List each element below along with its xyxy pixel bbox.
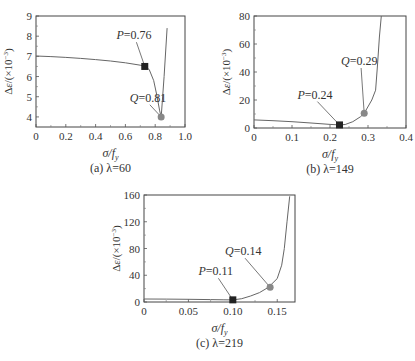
x-tick-label: 0.6 bbox=[119, 130, 133, 142]
marker-p bbox=[229, 296, 236, 303]
marker-label-value: =0.14 bbox=[234, 244, 262, 258]
y-tick-label: 120 bbox=[124, 216, 141, 228]
chart-caption: (c) λ=219 bbox=[196, 336, 243, 350]
x-axis-label: σ/fy bbox=[322, 147, 339, 163]
chart-caption: (a) λ=60 bbox=[90, 161, 131, 175]
x-tick-label: 0.05 bbox=[179, 305, 199, 317]
y-tick-label: 0 bbox=[245, 122, 251, 134]
x-tick-label: 0.10 bbox=[223, 305, 243, 317]
x-tick-label: 1.0 bbox=[178, 130, 192, 142]
marker-label-value: =0.81 bbox=[139, 91, 167, 105]
y-axis-label-unit: /(×10 bbox=[110, 236, 123, 260]
marker-q bbox=[267, 284, 274, 291]
marker-label: P=0.11 bbox=[197, 264, 233, 278]
y-tick-label: 20 bbox=[239, 94, 251, 106]
marker-label: Q=0.14 bbox=[225, 244, 261, 258]
marker-label-value: =0.11 bbox=[206, 264, 233, 278]
plot-frame bbox=[254, 16, 406, 128]
y-tick-label: 160 bbox=[124, 189, 141, 201]
leader-line bbox=[245, 258, 270, 287]
data-line bbox=[254, 16, 381, 125]
marker-label-value: =0.24 bbox=[305, 88, 333, 102]
marker-p bbox=[141, 63, 148, 70]
figure: 00.20.40.60.81.0456789P=0.76Q=0.81Δε/(×1… bbox=[0, 0, 415, 361]
y-axis-label-close: ) bbox=[110, 225, 123, 229]
marker-label-value: =0.29 bbox=[350, 54, 378, 68]
x-tick-label: 0.2 bbox=[323, 131, 337, 143]
x-tick-label: 0 bbox=[33, 130, 39, 142]
y-tick-label: 40 bbox=[129, 269, 141, 281]
y-tick-label: 40 bbox=[239, 66, 251, 78]
marker-label-value: =0.76 bbox=[124, 28, 152, 42]
y-tick-label: 4 bbox=[27, 111, 33, 123]
x-axis-label: σ/fy bbox=[102, 146, 119, 162]
plot-frame bbox=[36, 16, 185, 127]
x-tick-label: 0.8 bbox=[148, 130, 162, 142]
y-tick-label: 7 bbox=[27, 50, 33, 62]
y-tick-label: 80 bbox=[129, 243, 141, 255]
leader-line bbox=[361, 68, 364, 113]
marker-q bbox=[361, 110, 368, 117]
y-tick-label: 0 bbox=[135, 296, 141, 308]
chart-panel-b: 00.10.20.30.4020406080P=0.24Q=0.29Δε/(×1… bbox=[220, 10, 413, 176]
chart-panel-c: 00.050.100.1504080120160P=0.11Q=0.14Δε/(… bbox=[110, 189, 295, 350]
marker-label: Q=0.29 bbox=[341, 54, 377, 68]
x-tick-label: 0.4 bbox=[89, 130, 103, 142]
y-tick-label: 80 bbox=[239, 10, 251, 22]
marker-p bbox=[336, 121, 343, 128]
x-tick-label: 0 bbox=[251, 131, 257, 143]
x-axis-label: σ/fy bbox=[211, 321, 228, 337]
y-axis-label-unit: /(×10 bbox=[2, 59, 15, 83]
marker-label-variable: Q bbox=[341, 54, 350, 68]
y-axis-label: Δε/(×10−3) bbox=[2, 48, 15, 95]
marker-label-variable: Q bbox=[225, 244, 234, 258]
y-axis-label-close: ) bbox=[2, 48, 15, 52]
y-axis-label: Δε/(×10−3) bbox=[220, 48, 233, 95]
y-tick-label: 9 bbox=[27, 10, 33, 22]
y-axis-label-unit: /(×10 bbox=[220, 59, 233, 83]
x-tick-label: 0.4 bbox=[399, 131, 413, 143]
marker-label-variable: Q bbox=[130, 91, 139, 105]
marker-label: Q=0.81 bbox=[130, 91, 166, 105]
x-tick-label: 0.15 bbox=[268, 305, 288, 317]
chart-caption: (b) λ=149 bbox=[306, 162, 354, 176]
y-axis-label: Δε/(×10−3) bbox=[110, 225, 123, 272]
y-tick-label: 5 bbox=[27, 91, 33, 103]
marker-q bbox=[158, 113, 165, 120]
y-axis-label-close: ) bbox=[220, 48, 233, 52]
marker-label: P=0.24 bbox=[296, 88, 332, 102]
leader-line bbox=[136, 42, 144, 66]
chart-panel-a: 00.20.40.60.81.0456789P=0.76Q=0.81Δε/(×1… bbox=[2, 10, 192, 175]
y-tick-label: 60 bbox=[239, 38, 251, 50]
y-axis-label-delta: Δ bbox=[2, 88, 14, 95]
y-axis-label-delta: Δ bbox=[220, 88, 232, 95]
y-tick-label: 8 bbox=[27, 30, 33, 42]
y-axis-label-delta: Δ bbox=[110, 265, 122, 272]
x-tick-label: 0 bbox=[141, 305, 147, 317]
x-tick-label: 0.2 bbox=[59, 130, 73, 142]
x-tick-label: 0.1 bbox=[285, 131, 299, 143]
x-tick-label: 0.3 bbox=[361, 131, 375, 143]
marker-label: P=0.76 bbox=[115, 28, 151, 42]
y-tick-label: 6 bbox=[27, 71, 33, 83]
